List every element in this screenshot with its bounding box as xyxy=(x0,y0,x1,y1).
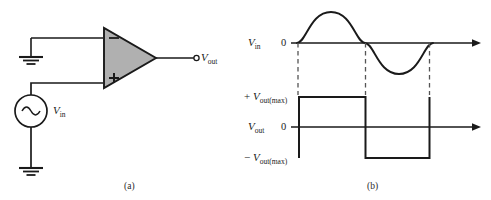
vin-axis xyxy=(291,39,481,46)
waveform-panel xyxy=(291,12,481,158)
vin-source-label: Vin xyxy=(53,105,66,116)
vout-max-positive-label: + Vout(max) xyxy=(244,91,287,102)
vin-axis-label: Vin xyxy=(248,37,261,48)
ac-source-icon xyxy=(15,95,47,127)
vout-zero-label: 0 xyxy=(281,121,286,132)
wire-noninverting-input xyxy=(31,83,103,95)
panel-b-caption: (b) xyxy=(367,181,378,191)
ground-bottom-icon xyxy=(19,168,43,175)
vout-max-negative-label: − Vout(max) xyxy=(244,152,287,163)
output-terminal-icon xyxy=(194,55,199,60)
vout-axis-label: Vout xyxy=(248,121,264,132)
circuit-panel xyxy=(15,28,199,175)
comparator-figure: Vin Vout Vin 0 + Vout(max) Vout 0 − Vout… xyxy=(0,0,491,200)
vin-zero-label: 0 xyxy=(281,37,286,48)
vout-axis xyxy=(291,123,481,130)
dashed-reference-lines xyxy=(298,43,430,95)
vout-terminal-label: Vout xyxy=(201,52,217,63)
panel-a-caption: (a) xyxy=(124,181,135,191)
ground-top-icon xyxy=(19,38,43,64)
